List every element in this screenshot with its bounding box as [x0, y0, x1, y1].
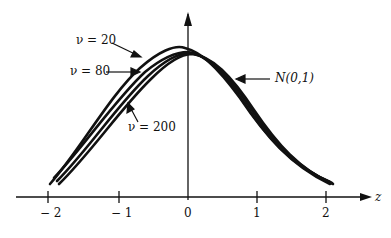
tick-label: 2 [322, 206, 330, 220]
arrow-nu-20-head-icon [131, 51, 141, 57]
chart: ν = 20 ν = 80 ν = 200 N(0,1) z − 2 − 1 0… [0, 0, 391, 238]
label-nu-20: ν = 20 [76, 33, 116, 47]
label-normal: N(0,1) [275, 71, 314, 85]
chart-plot [0, 0, 391, 238]
tick-label: − 2 [40, 206, 62, 220]
arrow-normal-head-icon [236, 75, 245, 83]
tick-label: − 1 [111, 206, 133, 220]
tick-label: 1 [253, 206, 261, 220]
y-axis-arrow-icon [184, 12, 192, 26]
tick-label: 0 [184, 206, 192, 220]
label-nu-200: ν = 200 [128, 120, 176, 134]
x-axis-arrow-icon [360, 193, 372, 201]
axis-label-z: z [375, 190, 381, 204]
label-nu-80: ν = 80 [70, 64, 110, 78]
